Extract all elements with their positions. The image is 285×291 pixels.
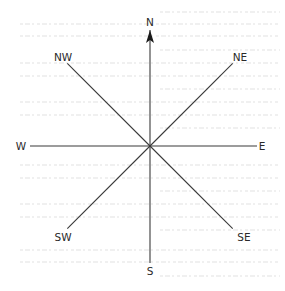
label-sw: SW: [54, 231, 72, 243]
compass-rose-diagram: NNEESESSWWNW: [0, 0, 285, 291]
label-e: E: [259, 140, 266, 152]
label-s: S: [147, 265, 154, 277]
label-se: SE: [237, 231, 250, 243]
ray-sw: [67, 146, 150, 229]
label-nw: NW: [54, 51, 73, 63]
label-ne: NE: [233, 51, 248, 63]
ray-nw: [67, 63, 150, 146]
label-w: W: [16, 140, 27, 152]
label-n: N: [146, 16, 154, 28]
ray-se: [150, 146, 233, 229]
compass-rays: [30, 30, 257, 263]
